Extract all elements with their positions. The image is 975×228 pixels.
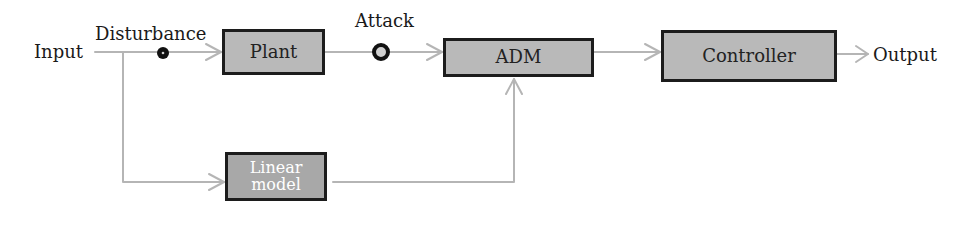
- wire-linear-model-adm: [333, 79, 514, 182]
- adm-block: ADM: [443, 38, 594, 77]
- attack-label: Attack: [355, 12, 414, 30]
- plant-block: Plant: [222, 29, 325, 75]
- block-diagram: Input Disturbance Attack Output Plant AD…: [0, 0, 975, 228]
- disturbance-marker-icon: [157, 47, 169, 59]
- adm-block-label: ADM: [496, 48, 542, 67]
- plant-block-label: Plant: [250, 43, 297, 62]
- linear-model-block: Linear model: [225, 152, 327, 201]
- output-label: Output: [873, 46, 937, 64]
- linear-model-block-label: Linear model: [242, 160, 310, 194]
- controller-block-label: Controller: [702, 47, 796, 66]
- attack-marker-icon: [374, 45, 388, 59]
- disturbance-label: Disturbance: [95, 25, 206, 43]
- controller-block: Controller: [661, 30, 837, 82]
- wire-input-linear-model: [123, 53, 224, 182]
- input-label: Input: [34, 43, 83, 61]
